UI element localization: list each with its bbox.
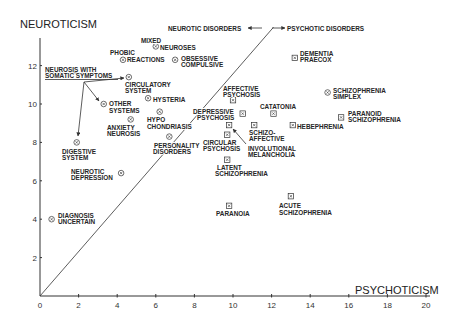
point-label: PSYCHOSIS [203, 145, 241, 152]
data-point-schizo-affective[interactable]: SCHIZO- AFFECTIVE [249, 122, 285, 141]
circled-x-marker-icon [128, 117, 134, 123]
circled-x-marker-icon [120, 57, 126, 63]
arrow-to-other-systems-icon [84, 82, 99, 101]
boxed-x-marker-icon [252, 122, 257, 127]
series-psychotic: DEMENTIA PRAECOX SCHIZOPHRENIA SIMPLEX P… [193, 50, 401, 217]
boxed-x-marker-icon [292, 55, 297, 60]
data-point-digestive-system[interactable]: DIGESTIVE SYSTEM [62, 140, 97, 161]
point-label: PRAECOX [300, 56, 332, 63]
boxed-x-marker-icon [271, 111, 276, 116]
x-tick-label: 8 [192, 301, 197, 310]
point-label: REACTIONS [127, 56, 165, 63]
data-point-catatonia[interactable]: CATATONIA [260, 103, 296, 116]
point-label: SYSTEM [62, 154, 88, 161]
point-label: SCHIZOPHRENIA [348, 116, 401, 123]
x-tick-label: 20 [422, 301, 431, 310]
point-label: CATATONIA [260, 103, 296, 110]
circled-x-marker-icon [172, 57, 178, 63]
data-point-affective-psychosis[interactable]: AFFECTIVE PSYCHOSIS [223, 85, 261, 103]
circled-x-marker-icon [157, 109, 163, 115]
data-point-hysteria[interactable]: HYSTERIA [145, 95, 185, 102]
point-label: NEUROSIS [107, 130, 141, 137]
point-label: SCHIZOPHRENIA [279, 209, 332, 216]
data-point-acute-schizophrenia[interactable]: ACUTE SCHIZOPHRENIA [279, 194, 332, 216]
boxed-x-marker-icon [290, 122, 295, 127]
circled-x-marker-icon [153, 44, 159, 50]
point-label: UNCERTAIN [58, 218, 96, 225]
arrow-to-digestive-icon [78, 82, 84, 136]
circled-x-marker-icon [126, 74, 132, 80]
boxed-x-marker-icon [288, 194, 293, 199]
circled-x-marker-icon [145, 95, 151, 101]
x-tick-label: 4 [115, 301, 120, 310]
data-point-dementia-praecox[interactable]: DEMENTIA PRAECOX [292, 50, 334, 64]
point-label: PHOBIC [110, 49, 135, 56]
x-axis-title: PSYCHOTICISM [355, 284, 439, 296]
point-label: MIXED [141, 37, 162, 44]
x-tick-label: 0 [38, 301, 43, 310]
boxed-x-marker-icon [225, 157, 230, 162]
data-point-hypochondriasis[interactable]: HYPO CHONDRIASIS [147, 109, 192, 130]
point-label: HYSTERIA [153, 96, 186, 103]
x-tick-label: 6 [154, 301, 159, 310]
data-point-anxiety-neurosis[interactable]: ANXIETY NEUROSIS [107, 117, 141, 137]
boxed-x-marker-icon [240, 111, 245, 116]
point-label: PSYCHOSIS [197, 114, 235, 121]
disorder-side-annotation: NEUROTIC DISORDERS PSYCHOTIC DISORDERS [168, 25, 365, 32]
point-label: PSYCHOSIS [223, 91, 261, 98]
data-point-latent-schizophrenia[interactable]: LATENT SCHIZOPHRENIA [215, 157, 268, 177]
y-tick-label: 6 [33, 177, 38, 186]
y-tick-label: 10 [28, 100, 37, 109]
neurotic-disorders-label: NEUROTIC DISORDERS [168, 25, 242, 32]
circled-x-marker-icon [101, 101, 107, 107]
y-axis-title: NEUROTICISM [20, 18, 97, 30]
data-point-paranoid-schizophrenia[interactable]: PARANOID SCHIZOPHRENIA [338, 110, 401, 124]
point-label: DISORDERS [153, 148, 192, 155]
axis-ticks: 0246810121416182024681012 [28, 62, 431, 310]
x-tick-label: 16 [344, 301, 353, 310]
psychotic-disorders-label: PSYCHOTIC DISORDERS [287, 25, 365, 32]
somatic-label-line-2: SOMATIC SYMPTOMS [45, 72, 113, 79]
point-label: COMPULSIVE [181, 61, 224, 68]
x-tick-label: 18 [383, 301, 392, 310]
x-tick-label: 14 [306, 301, 315, 310]
circled-x-marker-icon [49, 216, 55, 222]
data-point-personality-disorders[interactable]: PERSONALITY DISORDERS [153, 134, 200, 155]
boxed-x-marker-icon [225, 132, 230, 137]
data-point-obsessive-compulsive[interactable]: OBSESSIVE COMPULSIVE [172, 55, 224, 69]
scatter-chart: 0246810121416182024681012 NEUROTICISM PS… [0, 0, 451, 324]
data-point-diagnosis-uncertain[interactable]: DIAGNOSIS UNCERTAIN [49, 212, 96, 226]
x-tick-label: 10 [229, 301, 238, 310]
y-tick-label: 4 [33, 215, 38, 224]
data-point-depressive-psychosis[interactable]: DEPRESSIVE PSYCHOSIS [193, 108, 245, 121]
circled-x-marker-icon [167, 134, 173, 140]
point-label: SYSTEM [125, 87, 151, 94]
boxed-x-marker-icon [338, 115, 343, 120]
point-label: NEUROSES [160, 44, 197, 51]
x-tick-label: 12 [267, 301, 276, 310]
data-point-phobic-reactions[interactable]: PHOBIC REACTIONS [110, 49, 165, 63]
boxed-x-marker-icon [226, 203, 231, 208]
boxed-x-marker-icon [226, 122, 231, 127]
circled-x-marker-icon [74, 140, 80, 146]
boxed-x-marker-icon [230, 98, 235, 103]
y-tick-label: 12 [28, 62, 37, 71]
data-point-paranoia[interactable]: PARANOIA [216, 203, 250, 216]
data-point-circular-psychosis[interactable]: CIRCULAR PSYCHOSIS [203, 132, 241, 152]
point-label: CHONDRIASIS [147, 123, 192, 130]
point-label: HEBEPHRENIA [297, 123, 344, 130]
data-point-circulatory-system[interactable]: CIRCULATORY SYSTEM [125, 74, 171, 94]
point-label: SCHIZOPHRENIA [215, 170, 268, 177]
data-point-neurotic-depression[interactable]: NEUROTIC DEPRESSION [71, 168, 124, 182]
x-tick-label: 2 [76, 301, 81, 310]
point-label: MELANCHOLIA [248, 151, 296, 158]
data-point-mixed-neuroses[interactable]: MIXED NEUROSES [141, 37, 197, 51]
point-label: AFFECTIVE [249, 135, 285, 142]
circled-x-marker-icon [118, 170, 124, 176]
point-label: DEPRESSION [71, 174, 113, 181]
data-point-other-systems[interactable]: OTHER SYSTEMS [101, 100, 140, 114]
circled-x-marker-icon [325, 90, 331, 96]
data-point-hebephrenia[interactable]: HEBEPHRENIA [290, 122, 344, 129]
point-label: PARANOIA [216, 210, 250, 217]
data-point-schizophrenia-simplex[interactable]: SCHIZOPHRENIA SIMPLEX [325, 87, 386, 101]
